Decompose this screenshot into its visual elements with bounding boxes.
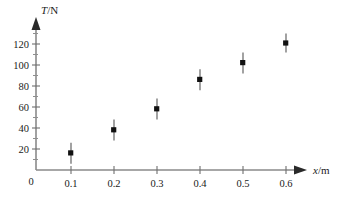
- data-series: [68, 34, 288, 164]
- data-marker[interactable]: [111, 127, 116, 132]
- x-tick-label: 0.6: [279, 178, 292, 189]
- data-marker[interactable]: [283, 40, 288, 45]
- data-point-group[interactable]: [68, 143, 73, 164]
- data-marker[interactable]: [240, 60, 245, 65]
- data-marker[interactable]: [154, 106, 159, 111]
- data-point-group[interactable]: [240, 52, 245, 73]
- x-axis-arrowhead: [294, 166, 307, 175]
- y-axis-title-unit: /N: [47, 4, 58, 16]
- x-tick-label: 0.2: [107, 178, 120, 189]
- y-axis-tick-labels: 20 40 60 80 100 120: [13, 39, 29, 155]
- y-tick-label: 40: [19, 123, 30, 134]
- y-tick-label: 20: [19, 144, 30, 155]
- y-tick-label: 60: [19, 102, 30, 113]
- y-axis-title: T/N: [41, 4, 58, 16]
- x-tick-label: 0.1: [64, 178, 77, 189]
- data-point-group[interactable]: [111, 120, 116, 141]
- x-tick-label: 0.4: [193, 178, 207, 189]
- x-tick-label: 0.3: [150, 178, 163, 189]
- data-point-group[interactable]: [154, 99, 159, 120]
- x-axis-title: x/m: [312, 164, 330, 176]
- x-tick-label: 0.5: [236, 178, 249, 189]
- data-point-group[interactable]: [197, 69, 202, 90]
- chart-figure: 20 40 60 80 100 120 0 0.1 0.2 0.3 0.4 0.…: [0, 0, 341, 206]
- data-marker[interactable]: [68, 150, 73, 155]
- x-axis-title-unit: /m: [318, 164, 330, 176]
- y-tick-label: 100: [13, 60, 29, 71]
- y-axis-arrowhead: [32, 17, 41, 30]
- origin-label: 0: [28, 176, 33, 187]
- scatter-plot: 20 40 60 80 100 120 0 0.1 0.2 0.3 0.4 0.…: [0, 0, 341, 206]
- data-point-group[interactable]: [283, 34, 288, 53]
- x-axis-tick-labels: 0.1 0.2 0.3 0.4 0.5 0.6: [64, 178, 292, 189]
- y-tick-label: 80: [19, 81, 30, 92]
- y-tick-label: 120: [13, 39, 29, 50]
- data-marker[interactable]: [197, 77, 202, 82]
